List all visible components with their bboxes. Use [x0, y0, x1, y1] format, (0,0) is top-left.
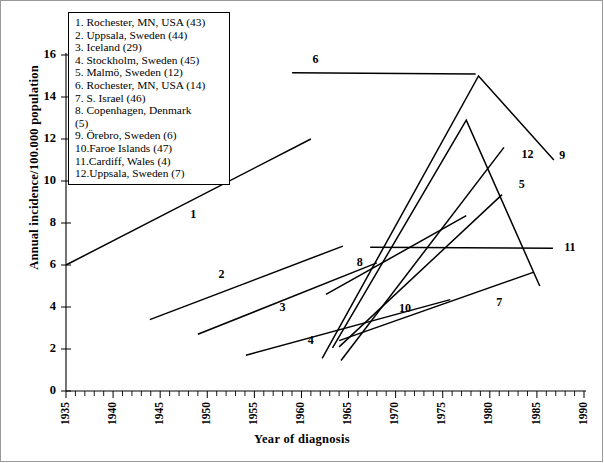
series-label-3: 3 [280, 300, 286, 314]
y-tick-label: 16 [44, 47, 57, 61]
legend-item: 3. Iceland (29) [75, 41, 224, 54]
y-tick-label: 14 [44, 89, 57, 103]
y-tick-label: 2 [50, 341, 56, 355]
legend-item: 5. Malmö, Sweden (12) [75, 66, 224, 79]
series-line-3 [198, 263, 377, 334]
series-label-12: 12 [521, 147, 533, 161]
x-tick-label: 1945 [153, 402, 165, 425]
series-line-9 [322, 76, 554, 358]
x-tick-label: 1955 [247, 402, 259, 425]
x-tick-label: 1975 [435, 402, 447, 425]
series-line-12 [333, 120, 540, 348]
incidence-line-chart: 0246810121416193519401945195019551960196… [0, 0, 604, 463]
series-label-8: 8 [357, 255, 363, 269]
series-label-5: 5 [519, 177, 525, 191]
y-tick-label: 12 [44, 131, 57, 145]
series-label-2: 2 [218, 267, 224, 281]
series-label-11: 11 [564, 240, 575, 254]
series-line-8 [326, 216, 466, 295]
y-tick-label: 10 [44, 173, 57, 187]
legend-item: 8. Copenhagen, Denmark (5) [75, 104, 224, 129]
series-line-6 [292, 73, 476, 74]
legend-list: 1. Rochester, MN, USA (43)2. Uppsala, Sw… [75, 16, 224, 180]
x-tick-label: 1985 [530, 402, 542, 425]
legend-item: 9. Örebro, Sweden (6) [75, 129, 224, 142]
series-label-9: 9 [559, 148, 565, 162]
x-tick-label: 1965 [341, 402, 353, 425]
legend: 1. Rochester, MN, USA (43)2. Uppsala, Sw… [68, 12, 230, 185]
x-tick-label: 1980 [482, 402, 494, 425]
legend-item: 6. Rochester, MN, USA (14) [75, 79, 224, 92]
legend-item: 10.Faroe Islands (47) [75, 142, 224, 155]
series-label-6: 6 [313, 52, 319, 66]
series-line-5 [339, 195, 502, 347]
x-tick-label: 1970 [388, 402, 400, 425]
series-line-11 [370, 247, 553, 248]
series-label-10: 10 [399, 301, 411, 315]
x-tick-label: 1960 [294, 402, 306, 425]
y-tick-label: 8 [50, 215, 56, 229]
legend-item: 11.Cardiff, Wales (4) [75, 155, 224, 168]
series-line-2 [150, 246, 343, 320]
x-tick-label: 1950 [200, 402, 212, 425]
legend-item: 4. Stockholm, Sweden (45) [75, 54, 224, 67]
legend-item: 1. Rochester, MN, USA (43) [75, 16, 224, 29]
legend-item: 7. S. Israel (46) [75, 92, 224, 105]
y-tick-label: 4 [50, 299, 57, 313]
legend-item: 12.Uppsala, Sweden (7) [75, 167, 224, 180]
y-tick-label: 0 [50, 383, 56, 397]
x-tick-label: 1935 [59, 402, 71, 425]
y-tick-label: 6 [50, 257, 56, 271]
x-tick-label: 1940 [106, 402, 118, 425]
x-axis-title: Year of diagnosis [0, 432, 604, 447]
x-tick-label: 1990 [577, 402, 589, 425]
series-label-4: 4 [308, 333, 314, 347]
series-line-4 [246, 300, 450, 356]
series-label-1: 1 [190, 207, 196, 221]
series-label-7: 7 [496, 295, 502, 309]
y-axis-title: Annual incidence/100.000 population [27, 48, 42, 288]
series-line-7 [339, 272, 533, 340]
legend-item: 2. Uppsala, Sweden (44) [75, 29, 224, 42]
series-line-10 [341, 147, 504, 360]
